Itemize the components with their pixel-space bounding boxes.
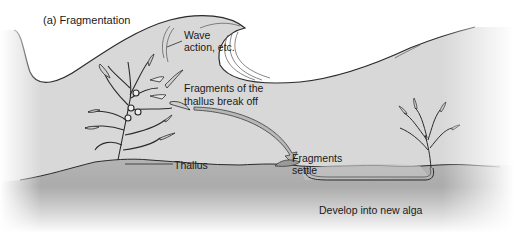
develop-label: Develop into new alga [319,204,422,216]
thallus-label: Thallus [174,159,208,171]
wave-label-line1: Wave [184,29,210,41]
fragmentation-diagram: (a) Fragmentation Wave action, etc. Frag… [0,0,514,233]
fragments-settle-label-line2: settle [292,164,317,176]
fragments-break-label-line2: thallus break off [184,95,258,107]
fragments-settle-label-line1: Fragments [292,152,342,164]
wave-label-line2: action, etc. [184,41,235,53]
diagram-art [0,0,514,233]
figure-title: (a) Fragmentation [43,14,130,26]
fragments-break-label-line1: Fragments of the [184,82,263,94]
